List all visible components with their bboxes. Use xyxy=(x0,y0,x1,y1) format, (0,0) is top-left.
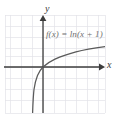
function-equation-label: f(x) = ln(x + 1) xyxy=(46,30,103,39)
x-axis-label: x xyxy=(107,60,111,70)
y-axis-label: y xyxy=(45,4,49,14)
x-axis xyxy=(4,64,105,71)
plot-canvas xyxy=(0,0,117,120)
graph-figure: y x f(x) = ln(x + 1) xyxy=(0,0,117,120)
